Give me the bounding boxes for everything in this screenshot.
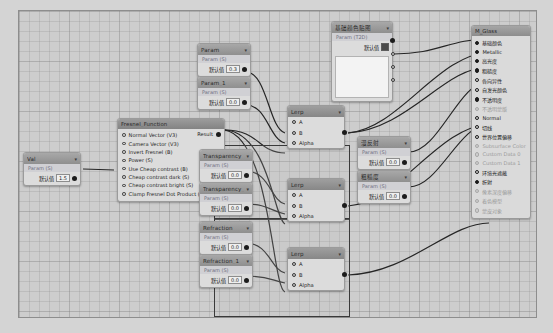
input-port-icon[interactable] [475,208,479,212]
node-texture-output-sockets[interactable] [390,38,395,82]
node-param-diffuse-value-field[interactable]: 0.0 [386,158,400,166]
input-port-icon[interactable] [475,161,479,165]
input-port-icon[interactable] [475,180,479,184]
material-input-row[interactable]: 不透明度 [472,95,530,105]
material-input-row[interactable]: 自发光颜色 [472,85,530,95]
material-input-row[interactable]: 各向异性 [472,75,530,85]
texture-output-b-port[interactable] [391,78,395,82]
fresnel-output-port[interactable] [216,132,221,137]
material-output-header[interactable]: M_Glass [472,26,530,36]
fresnel-result-row[interactable]: Result [197,131,221,137]
input-port-icon[interactable] [122,167,126,171]
lerp-input-a[interactable]: A [288,117,344,127]
input-port-icon[interactable] [292,141,296,145]
node-lerp-top-header[interactable]: Lerp ▾ [288,106,344,117]
lerp-input-b[interactable]: B [288,200,344,210]
chevron-down-icon[interactable]: ▾ [244,80,247,86]
node-lerp-mid-header[interactable]: Lerp ▾ [288,179,344,190]
input-port-icon[interactable] [292,131,296,135]
input-port-icon[interactable] [292,193,296,197]
chevron-down-icon[interactable]: ▾ [338,251,341,257]
node-val-value-row[interactable]: 默认值 1.5 [24,172,80,185]
node-param-diffuse[interactable]: 漫反射 ▾ Param (S) 默认值 0.0 [357,136,411,170]
input-port-icon[interactable] [475,199,479,203]
input-port-icon[interactable] [475,97,479,101]
node-param-1-output-port[interactable] [242,100,247,105]
texture-thumbnail-icon[interactable] [381,43,389,51]
node-transparency[interactable]: Transparency ▾ Param (S) 默认值 0.0 [199,149,253,183]
node-transparency-value-row[interactable]: 默认值 0.0 [200,169,252,182]
node-transparency-1-output-port[interactable] [244,206,249,211]
input-port-icon[interactable] [292,283,296,287]
node-refraction-header[interactable]: Refraction ▾ [200,222,252,233]
chevron-down-icon[interactable]: ▾ [338,109,341,115]
node-param-1-value-row[interactable]: 默认值 0.0 [198,96,250,109]
node-texture-value-row[interactable]: 默认值 [332,41,392,54]
node-refraction-1-value-field[interactable]: 0.0 [228,276,242,284]
node-param-header[interactable]: Param ▾ [198,44,250,55]
node-transparency-1-value-field[interactable]: 0.0 [228,204,242,212]
input-port-icon[interactable] [475,50,479,54]
node-transparency-header[interactable]: Transparency ▾ [200,150,252,161]
node-param[interactable]: Param ▾ Param (S) 默认值 0.3 [197,43,251,77]
node-param-diffuse-header[interactable]: 漫反射 ▾ [358,137,410,148]
node-param-diffuse-value-row[interactable]: 默认值 0.0 [358,156,410,169]
node-param-roughness[interactable]: 粗糙度 ▾ Param (S) 默认值 0.0 [357,170,411,204]
node-transparency-1[interactable]: Transparency_1 ▾ Param (S) 默认值 0.0 [199,182,253,216]
material-input-row[interactable]: 基础颜色 [472,38,530,48]
input-port-icon[interactable] [122,175,126,179]
input-port-icon[interactable] [475,107,479,111]
texture-output-rgb-port[interactable] [390,38,395,43]
node-val-header[interactable]: Val ▾ [24,153,80,164]
node-lerp-top[interactable]: Lerp ▾ A B Alpha [287,105,345,149]
node-refraction-1-header[interactable]: Refraction_1 ▾ [200,255,252,266]
input-port-icon[interactable] [475,41,479,45]
node-lerp-bottom-header[interactable]: Lerp ▾ [288,248,344,259]
lerp-input-alpha[interactable]: Alpha [288,211,344,221]
node-graph-canvas[interactable]: Val ▾ Param (S) 默认值 1.5 Fresnel_Function… [18,10,537,318]
node-lerp-top-output-port[interactable] [342,130,347,135]
input-port-icon[interactable] [122,192,126,196]
material-input-row[interactable]: 着色模型 [472,196,530,206]
chevron-down-icon[interactable]: ▾ [246,186,249,192]
input-port-icon[interactable] [122,133,126,137]
node-param-roughness-value-field[interactable]: 0.0 [386,192,400,200]
material-input-row[interactable]: 高光度 [472,56,530,66]
node-transparency-1-header[interactable]: Transparency_1 ▾ [200,183,252,194]
node-material-output[interactable]: M_Glass 基础颜色 Metallic 高光度 粗糙度 各向异性 自发光颜色… [471,25,531,219]
lerp-input-a[interactable]: A [288,190,344,200]
fresnel-param-row[interactable]: Camera Vector (V3) [118,139,224,147]
chevron-down-icon[interactable]: ▾ [246,153,249,159]
node-refraction[interactable]: Refraction ▾ Param (S) 默认值 0.0 [199,221,253,255]
chevron-down-icon[interactable]: ▾ [386,25,389,31]
chevron-down-icon[interactable]: ▾ [244,47,247,53]
chevron-down-icon[interactable]: ▾ [338,182,341,188]
lerp-input-alpha[interactable]: Alpha [288,138,344,148]
node-param-roughness-output-port[interactable] [402,194,407,199]
chevron-down-icon[interactable]: ▾ [246,258,249,264]
node-param-1[interactable]: Param_1 ▾ Param (S) 默认值 0.0 [197,76,251,110]
node-refraction-1[interactable]: Refraction_1 ▾ Param (S) 默认值 0.0 [199,254,253,288]
input-port-icon[interactable] [475,189,479,193]
input-port-icon[interactable] [122,142,126,146]
input-port-icon[interactable] [292,214,296,218]
node-lerp-mid-output-port[interactable] [342,203,347,208]
node-fresnel-header[interactable]: Fresnel_Function [118,119,224,129]
node-param-value-field[interactable]: 0.3 [226,65,240,73]
lerp-input-b[interactable]: B [288,269,344,279]
chevron-down-icon[interactable]: ▾ [74,156,77,162]
input-port-icon[interactable] [475,68,479,72]
material-input-row[interactable]: 世界位置偏移 [472,132,530,142]
input-port-icon[interactable] [292,262,296,266]
node-refraction-output-port[interactable] [244,245,249,250]
node-lerp-mid[interactable]: Lerp ▾ A B Alpha [287,178,345,222]
node-refraction-value-field[interactable]: 0.0 [228,243,242,251]
input-port-icon[interactable] [475,59,479,63]
chevron-down-icon[interactable]: ▾ [404,140,407,146]
node-param-output-port[interactable] [242,67,247,72]
input-port-icon[interactable] [475,170,479,174]
lerp-input-b[interactable]: B [288,127,344,137]
material-input-row[interactable]: Metallic [472,48,530,57]
node-val[interactable]: Val ▾ Param (S) 默认值 1.5 [23,152,81,186]
lerp-input-a[interactable]: A [288,259,344,269]
